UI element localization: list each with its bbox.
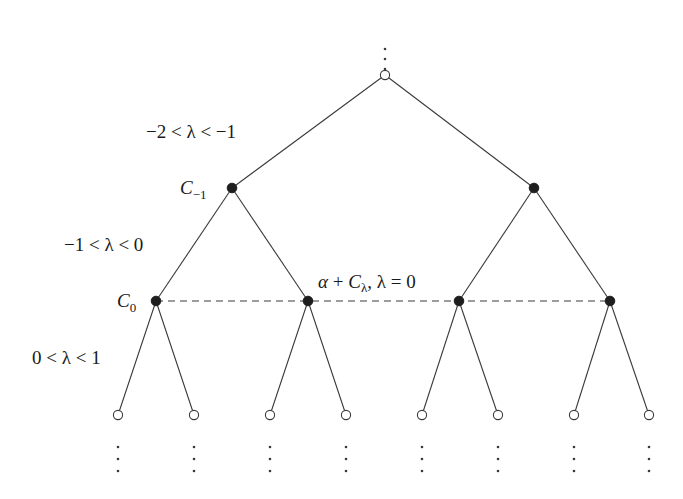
continuation-dot <box>384 48 387 51</box>
tree-edge <box>422 301 459 415</box>
open-node <box>265 410 274 419</box>
continuation-dot <box>648 458 651 461</box>
continuation-dots <box>117 48 651 473</box>
continuation-dot <box>421 458 424 461</box>
continuation-dot <box>193 458 196 461</box>
tree-edge <box>270 301 308 415</box>
continuation-dot <box>573 458 576 461</box>
tree-edge <box>459 301 498 415</box>
open-node <box>189 410 198 419</box>
tree-edge <box>232 188 308 301</box>
tree-edge <box>385 75 534 188</box>
continuation-dot <box>269 470 272 473</box>
edge-label-level3: 0 < λ < 1 <box>32 347 101 368</box>
continuation-dot <box>345 470 348 473</box>
continuation-dot <box>497 446 500 449</box>
node-label-c0: C0 <box>117 290 136 315</box>
continuation-dot <box>117 470 120 473</box>
open-node <box>493 410 502 419</box>
open-node <box>569 410 578 419</box>
tree-edge <box>534 188 610 301</box>
continuation-dot <box>497 470 500 473</box>
continuation-dot <box>384 58 387 61</box>
continuation-dot <box>497 458 500 461</box>
dashed-line-label: α + Cλ, λ = 0 <box>318 271 416 295</box>
open-node <box>341 410 350 419</box>
tree-edge <box>232 75 385 188</box>
tree-edge <box>610 301 649 415</box>
continuation-dot <box>648 446 651 449</box>
continuation-dot <box>573 470 576 473</box>
filled-node <box>303 296 313 306</box>
continuation-dot <box>573 446 576 449</box>
tree-edge <box>574 301 610 415</box>
filled-node <box>529 183 539 193</box>
edge-label-level2: −1 < λ < 0 <box>64 234 143 255</box>
continuation-dot <box>193 470 196 473</box>
edge-label-level1: −2 < λ < −1 <box>146 121 236 142</box>
open-node <box>113 410 122 419</box>
tree-edge <box>308 301 346 415</box>
open-node <box>380 70 389 79</box>
continuation-dot <box>345 458 348 461</box>
continuation-dot <box>269 458 272 461</box>
open-node <box>417 410 426 419</box>
tree-edge <box>459 188 534 301</box>
filled-node <box>605 296 615 306</box>
tree-edge <box>118 301 156 415</box>
filled-node <box>454 296 464 306</box>
node-label-c-minus-1: C−1 <box>180 177 207 202</box>
tree-diagram: −2 < λ < −1 −1 < λ < 0 0 < λ < 1 C−1 C0 … <box>0 0 683 499</box>
continuation-dot <box>193 446 196 449</box>
continuation-dot <box>269 446 272 449</box>
open-node <box>644 410 653 419</box>
continuation-dot <box>421 446 424 449</box>
tree-edge <box>156 301 194 415</box>
continuation-dot <box>117 458 120 461</box>
filled-node <box>227 183 237 193</box>
continuation-dot <box>117 446 120 449</box>
continuation-dot <box>421 470 424 473</box>
continuation-dot <box>648 470 651 473</box>
continuation-dot <box>345 446 348 449</box>
tree-edge <box>156 188 232 301</box>
filled-node <box>151 296 161 306</box>
